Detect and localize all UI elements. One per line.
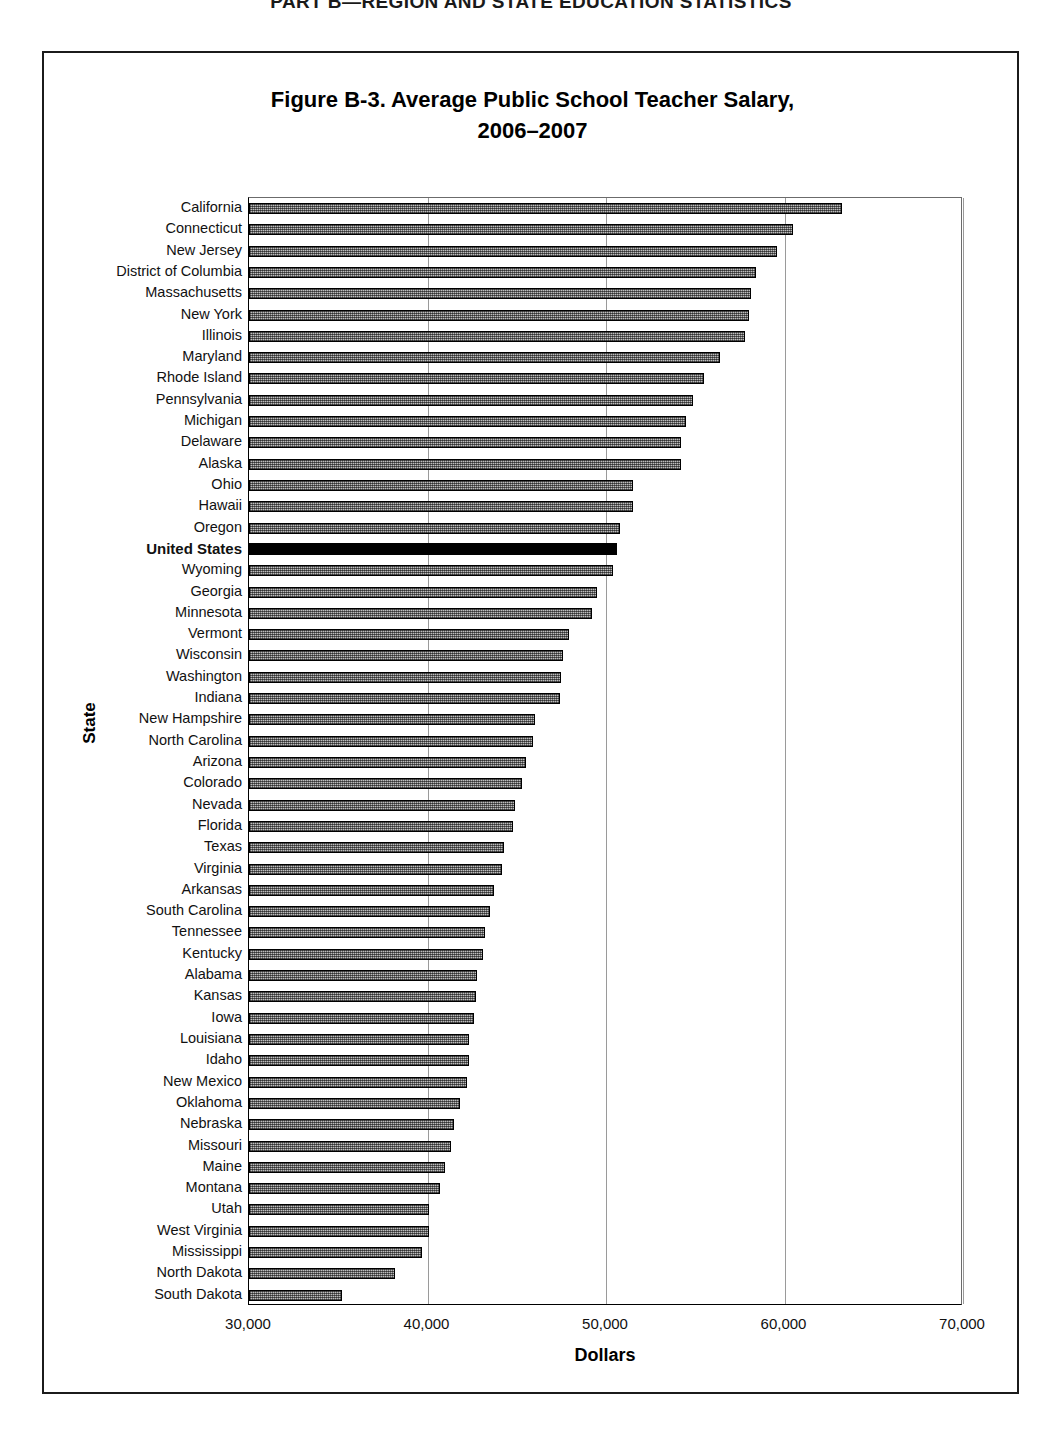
category-label: Utah xyxy=(84,1198,246,1219)
bar xyxy=(249,1077,467,1088)
category-label: District of Columbia xyxy=(84,261,246,282)
bar xyxy=(249,1098,460,1109)
bar xyxy=(249,416,686,427)
bar-row xyxy=(249,262,961,283)
bar xyxy=(249,842,504,853)
bar xyxy=(249,885,494,896)
category-label: Massachusetts xyxy=(84,282,246,303)
category-label: Iowa xyxy=(84,1007,246,1028)
category-label: Wisconsin xyxy=(84,644,246,665)
bar-row xyxy=(249,1114,961,1135)
bar-row xyxy=(249,283,961,304)
category-label: Tennessee xyxy=(84,921,246,942)
figure-title-line-2: 2006–2007 xyxy=(44,115,1021,146)
bar-row xyxy=(249,667,961,688)
bar-row xyxy=(249,582,961,603)
figure-frame: Figure B-3. Average Public School Teache… xyxy=(42,51,1019,1394)
bar xyxy=(249,501,633,512)
bar xyxy=(249,1119,454,1130)
bar xyxy=(249,906,490,917)
category-label: Maine xyxy=(84,1156,246,1177)
category-label: Idaho xyxy=(84,1049,246,1070)
bar-row xyxy=(249,1093,961,1114)
bar-row xyxy=(249,880,961,901)
bar xyxy=(249,224,793,235)
bar xyxy=(249,1034,469,1045)
category-label: Oklahoma xyxy=(84,1092,246,1113)
category-label: New Hampshire xyxy=(84,708,246,729)
bar xyxy=(249,352,720,363)
plot-area xyxy=(248,197,962,1305)
category-label: South Carolina xyxy=(84,900,246,921)
bar xyxy=(249,1055,469,1066)
category-label: Pennsylvania xyxy=(84,389,246,410)
x-axis-tick-label: 70,000 xyxy=(939,1315,985,1332)
bar-row xyxy=(249,773,961,794)
bar-row xyxy=(249,1178,961,1199)
bar-row xyxy=(249,219,961,240)
x-axis-tick-label: 40,000 xyxy=(404,1315,450,1332)
category-label: Vermont xyxy=(84,623,246,644)
bar-row xyxy=(249,624,961,645)
bar xyxy=(249,821,513,832)
bar xyxy=(249,864,502,875)
bar xyxy=(249,778,522,789)
category-label: Kansas xyxy=(84,985,246,1006)
category-label: Ohio xyxy=(84,474,246,495)
bar xyxy=(249,331,745,342)
category-label: Illinois xyxy=(84,325,246,346)
category-label: Alabama xyxy=(84,964,246,985)
bar-row xyxy=(249,347,961,368)
x-axis-tick-label: 60,000 xyxy=(761,1315,807,1332)
bar xyxy=(249,1162,445,1173)
bar xyxy=(249,629,569,640)
bar-row xyxy=(249,1050,961,1071)
bar xyxy=(249,693,560,704)
category-label: West Virginia xyxy=(84,1220,246,1241)
bar xyxy=(249,650,563,661)
bar-row xyxy=(249,859,961,880)
bar xyxy=(249,800,515,811)
bar xyxy=(249,395,693,406)
bar-row xyxy=(249,1157,961,1178)
category-label: Washington xyxy=(84,666,246,687)
bar xyxy=(249,480,633,491)
category-label: New Jersey xyxy=(84,240,246,261)
bar xyxy=(249,608,592,619)
bar-row xyxy=(249,411,961,432)
bar-row xyxy=(249,1263,961,1284)
category-label: New York xyxy=(84,304,246,325)
x-axis-tick-label: 30,000 xyxy=(225,1315,271,1332)
bar-row xyxy=(249,1242,961,1263)
category-label: South Dakota xyxy=(84,1284,246,1305)
category-label: Georgia xyxy=(84,581,246,602)
bar-row xyxy=(249,454,961,475)
category-label: Maryland xyxy=(84,346,246,367)
category-label: Oregon xyxy=(84,517,246,538)
bar xyxy=(249,672,561,683)
bar-row xyxy=(249,198,961,219)
bar xyxy=(249,246,777,257)
bar-row xyxy=(249,645,961,666)
bar xyxy=(249,587,597,598)
bar xyxy=(249,565,613,576)
bar-row xyxy=(249,1072,961,1093)
bar xyxy=(249,970,477,981)
bar xyxy=(249,714,535,725)
bar-row xyxy=(249,922,961,943)
bar xyxy=(249,523,620,534)
bar xyxy=(249,1204,429,1215)
bar-row xyxy=(249,496,961,517)
bar-row xyxy=(249,560,961,581)
bar-row xyxy=(249,432,961,453)
bar xyxy=(249,373,704,384)
bar xyxy=(249,459,681,470)
category-label: Rhode Island xyxy=(84,367,246,388)
figure-title: Figure B-3. Average Public School Teache… xyxy=(44,84,1021,146)
x-axis-title: Dollars xyxy=(248,1345,962,1366)
category-label: North Carolina xyxy=(84,730,246,751)
x-axis-tick-label: 50,000 xyxy=(582,1315,628,1332)
bar-row xyxy=(249,731,961,752)
bar-row xyxy=(249,305,961,326)
bar-row xyxy=(249,326,961,347)
